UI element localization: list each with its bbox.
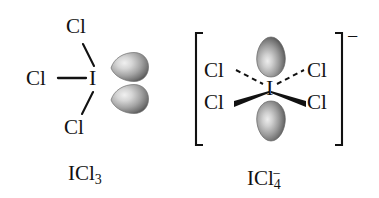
bond-i-cl-upper-left bbox=[236, 70, 263, 84]
formula-base: ICl bbox=[68, 161, 95, 185]
atom-label-cl-left: Cl bbox=[26, 68, 46, 89]
atom-label-cl-upper-left: Cl bbox=[204, 60, 224, 81]
lone-pair-lobe-bottom bbox=[256, 100, 286, 142]
bond-i-cl-upper-right bbox=[277, 70, 304, 84]
atom-label-i-center: I bbox=[89, 67, 96, 88]
atom-label-i-center: I bbox=[266, 77, 273, 98]
formula-base: ICl bbox=[247, 166, 274, 190]
bond-i-cl-lower-right bbox=[271, 91, 306, 107]
chemistry-figure: Cl Cl I Cl ICl3 bbox=[0, 0, 379, 198]
atom-label-cl-bottom: Cl bbox=[64, 117, 84, 138]
atom-label-cl-top: Cl bbox=[66, 16, 86, 37]
bond-i-cl-bottom bbox=[82, 92, 93, 114]
structure-icl3: Cl Cl I Cl ICl3 bbox=[0, 0, 190, 198]
bracket-left bbox=[196, 33, 203, 145]
atom-label-cl-lower-left: Cl bbox=[204, 92, 224, 113]
lone-pair-lobe-lower-right bbox=[109, 84, 149, 114]
atom-label-cl-lower-right: Cl bbox=[307, 92, 327, 113]
bond-i-cl-top bbox=[83, 44, 94, 66]
formula-caption-icl4: ICl4− bbox=[247, 163, 281, 195]
structure-icl4: Cl Cl I Cl Cl − ICl4− bbox=[190, 0, 379, 198]
atom-label-cl-upper-right: Cl bbox=[307, 60, 327, 81]
formula-caption-icl3: ICl3 bbox=[68, 163, 102, 190]
bond-i-cl-lower-left bbox=[234, 91, 269, 107]
formula-charge: − bbox=[273, 166, 281, 181]
bracket-right bbox=[335, 33, 342, 145]
bracket-charge-minus: − bbox=[347, 26, 358, 46]
formula-subscript: 3 bbox=[95, 172, 102, 187]
lone-pair-lobe-upper-right bbox=[109, 52, 149, 82]
lone-pair-lobe-top bbox=[256, 36, 286, 78]
